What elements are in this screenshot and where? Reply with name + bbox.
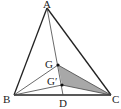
point-g2 [60, 83, 63, 86]
label-b: B [3, 93, 10, 105]
label-c: C [112, 93, 119, 105]
label-a: A [43, 0, 51, 10]
label-g-prime: G′ [47, 75, 57, 87]
side-ab [14, 8, 47, 95]
point-g [56, 63, 59, 66]
label-d: D [59, 97, 67, 109]
triangle-diagram: A B C D G G′ [0, 0, 121, 109]
label-g: G [45, 58, 53, 70]
geometry-figure: A B C D G G′ [0, 0, 121, 109]
